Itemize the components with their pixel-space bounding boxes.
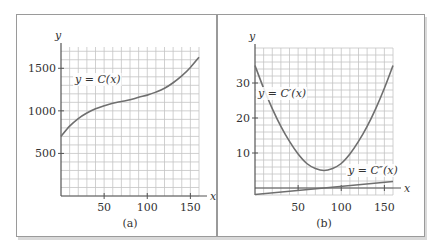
y-tick-label: 30 [236, 77, 250, 90]
curve-label: y = C″(x) [347, 164, 398, 177]
y-axis-label: y [54, 29, 62, 42]
chart-b-plot: 50100150102030xyy = C′(x)y = C″(x)(b) [218, 15, 424, 236]
x-tick-label: 100 [331, 201, 352, 214]
y-axis-label: y [248, 30, 256, 43]
y-tick-label: 10 [236, 147, 250, 160]
x-tick-label: 150 [180, 201, 201, 214]
y-tick-label: 500 [35, 147, 56, 160]
grid [61, 47, 199, 196]
y-tick-label: 1000 [28, 105, 56, 118]
x-tick-label: 150 [374, 201, 395, 214]
curve-label: y = C′(x) [257, 87, 306, 100]
y-tick-label: 20 [236, 112, 250, 125]
x-axis-label: x [404, 182, 411, 195]
chart-panel-b: 50100150102030xyy = C′(x)y = C″(x)(b) [217, 14, 425, 237]
chart-a-plot: 5010015050010001500xyy = C(x)(a) [17, 15, 216, 236]
chart-panel-a: 5010015050010001500xyy = C(x)(a) [16, 14, 217, 237]
axes: 5010015050010001500xy [28, 29, 216, 214]
y-tick-label: 1500 [28, 62, 56, 75]
x-tick-label: 50 [291, 201, 305, 214]
curve-label: y = C(x) [74, 73, 121, 86]
x-tick-label: 100 [137, 201, 158, 214]
panel-caption: (b) [316, 217, 332, 230]
panel-caption: (a) [122, 217, 137, 230]
x-tick-label: 50 [97, 201, 111, 214]
x-axis-label: x [210, 190, 216, 203]
